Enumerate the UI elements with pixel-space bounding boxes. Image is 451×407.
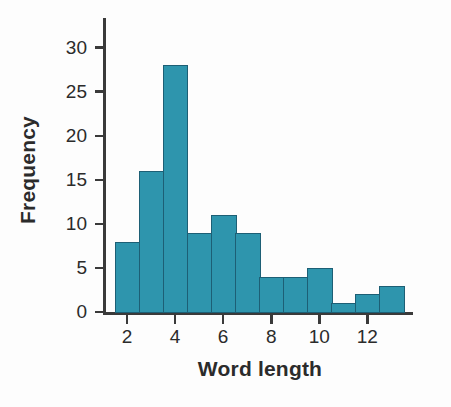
x-tick-6 [222,315,225,324]
y-tick-0 [95,311,104,314]
y-tick-label-10: 10 [53,213,87,235]
y-axis-line [103,18,106,314]
y-tick-label-20: 20 [53,125,87,147]
plot-area: 051015202530 24681012 [0,0,451,360]
histogram-bar [187,233,212,313]
histogram-bar [163,65,188,313]
x-tick-4 [174,315,177,324]
y-tick-15 [95,179,104,182]
histogram-bar [331,303,356,313]
y-tick-10 [95,223,104,226]
x-tick-label-4: 4 [155,326,195,348]
histogram-figure: Frequency 051015202530 24681012 Word len… [0,0,451,407]
histogram-bar [139,171,164,313]
y-tick-label-0: 0 [53,301,87,323]
x-tick-8 [270,315,273,324]
x-tick-label-8: 8 [251,326,291,348]
x-tick-label-10: 10 [299,326,339,348]
x-axis-title: Word length [95,357,425,381]
y-tick-label-30: 30 [53,37,87,59]
y-tick-label-15: 15 [53,169,87,191]
histogram-bar [355,294,380,313]
y-tick-5 [95,267,104,270]
x-tick-10 [318,315,321,324]
x-tick-label-12: 12 [347,326,387,348]
histogram-bar [259,277,284,313]
histogram-bar [379,286,404,313]
histogram-bar [211,215,236,313]
y-tick-20 [95,135,104,138]
histogram-bar [283,277,308,313]
histogram-bar [115,242,140,314]
x-tick-label-2: 2 [107,326,147,348]
x-tick-12 [366,315,369,324]
histogram-bar [307,268,332,313]
y-tick-25 [95,90,104,93]
y-tick-label-25: 25 [53,81,87,103]
y-tick-label-5: 5 [53,257,87,279]
x-tick-label-6: 6 [203,326,243,348]
x-tick-2 [126,315,129,324]
y-tick-30 [95,46,104,49]
histogram-bar [235,233,260,313]
